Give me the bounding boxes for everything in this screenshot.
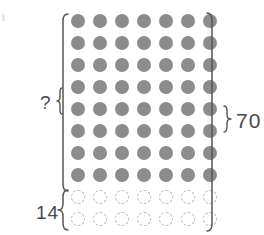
filled-circle-icon <box>137 124 151 138</box>
filled-circle-icon <box>93 168 107 182</box>
filled-circle-icon <box>115 124 129 138</box>
filled-circle-icon <box>181 80 195 94</box>
scan-artifact-speck <box>2 14 5 21</box>
filled-circle-icon <box>115 36 129 50</box>
dot-row <box>71 54 217 76</box>
dashed-circle-icon <box>115 212 129 226</box>
dot-row <box>71 208 217 230</box>
dot-row <box>71 186 217 208</box>
filled-circle-icon <box>159 36 173 50</box>
dashed-circle-icon <box>181 212 195 226</box>
filled-circle-icon <box>203 58 217 72</box>
dot-row <box>71 10 217 32</box>
filled-circle-icon <box>203 36 217 50</box>
filled-circle-icon <box>203 146 217 160</box>
filled-circle-icon <box>181 58 195 72</box>
filled-circle-icon <box>93 36 107 50</box>
filled-circle-icon <box>71 102 85 116</box>
filled-circle-icon <box>203 102 217 116</box>
filled-circle-icon <box>71 14 85 28</box>
filled-circle-icon <box>203 80 217 94</box>
filled-circle-icon <box>159 14 173 28</box>
filled-circle-icon <box>115 146 129 160</box>
total-quantity-label: 70 <box>236 110 261 131</box>
dashed-circle-icon <box>137 190 151 204</box>
filled-circle-icon <box>71 36 85 50</box>
filled-circle-icon <box>115 80 129 94</box>
filled-circle-icon <box>137 36 151 50</box>
filled-circle-icon <box>71 58 85 72</box>
filled-circle-icon <box>159 146 173 160</box>
filled-circle-icon <box>93 58 107 72</box>
filled-circle-icon <box>181 168 195 182</box>
dashed-circle-icon <box>203 212 217 226</box>
unknown-brace-icon <box>57 88 62 114</box>
filled-circle-icon <box>203 124 217 138</box>
filled-circle-icon <box>93 14 107 28</box>
dot-array <box>71 10 217 230</box>
filled-circle-icon <box>115 58 129 72</box>
figure-canvas: ? 14 70 <box>0 0 264 235</box>
filled-circle-icon <box>203 14 217 28</box>
filled-circle-icon <box>115 14 129 28</box>
filled-circle-icon <box>181 146 195 160</box>
filled-circle-icon <box>137 146 151 160</box>
dot-row <box>71 142 217 164</box>
missing-quantity-label: 14 <box>36 203 59 222</box>
dot-row <box>71 32 217 54</box>
dashed-circle-icon <box>159 190 173 204</box>
filled-circle-icon <box>93 102 107 116</box>
filled-circle-icon <box>115 102 129 116</box>
filled-circle-icon <box>181 102 195 116</box>
dot-row <box>71 120 217 142</box>
filled-circle-icon <box>137 102 151 116</box>
dashed-circle-icon <box>93 212 107 226</box>
left-square-bracket-icon <box>63 14 68 191</box>
dot-row <box>71 164 217 186</box>
dashed-circle-icon <box>115 190 129 204</box>
filled-circle-icon <box>137 80 151 94</box>
filled-circle-icon <box>159 102 173 116</box>
dashed-circle-icon <box>71 190 85 204</box>
dashed-circle-icon <box>181 190 195 204</box>
unknown-quantity-label: ? <box>40 93 51 112</box>
dashed-circle-icon <box>137 212 151 226</box>
dashed-circle-icon <box>93 190 107 204</box>
filled-circle-icon <box>71 146 85 160</box>
dashed-circle-icon <box>159 212 173 226</box>
missing-brace-icon <box>58 190 68 230</box>
filled-circle-icon <box>93 80 107 94</box>
dashed-circle-icon <box>71 212 85 226</box>
filled-circle-icon <box>93 124 107 138</box>
filled-circle-icon <box>159 124 173 138</box>
filled-circle-icon <box>181 36 195 50</box>
dashed-circle-icon <box>203 190 217 204</box>
filled-circle-icon <box>159 168 173 182</box>
filled-circle-icon <box>137 168 151 182</box>
filled-circle-icon <box>71 124 85 138</box>
filled-circle-icon <box>137 58 151 72</box>
dot-row <box>71 98 217 120</box>
filled-circle-icon <box>71 80 85 94</box>
filled-circle-icon <box>71 168 85 182</box>
filled-circle-icon <box>115 168 129 182</box>
filled-circle-icon <box>93 146 107 160</box>
filled-circle-icon <box>203 168 217 182</box>
total-brace-icon <box>224 106 231 132</box>
filled-circle-icon <box>137 14 151 28</box>
filled-circle-icon <box>159 80 173 94</box>
filled-circle-icon <box>181 14 195 28</box>
filled-circle-icon <box>159 58 173 72</box>
dot-row <box>71 76 217 98</box>
filled-circle-icon <box>181 124 195 138</box>
